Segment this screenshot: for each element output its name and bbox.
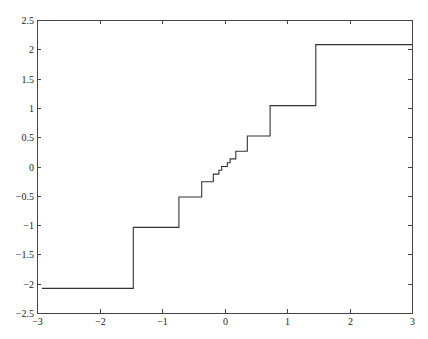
x-tick-label: −3 [32,316,43,327]
x-tick-label: 3 [410,316,415,327]
x-tick-label: −2 [95,316,106,327]
x-tick-label: 0 [223,316,228,327]
x-axis-ticks: −3−2−10123 [32,20,415,327]
y-tick-label: 0 [29,162,34,173]
x-tick-label: 1 [285,316,290,327]
x-tick-label: 2 [348,316,353,327]
y-tick-label: 2 [29,44,34,55]
step-curve [42,45,412,289]
y-tick-label: −2 [23,279,34,290]
y-tick-label: 1 [29,103,34,114]
y-tick-label: −1.5 [16,249,34,260]
x-tick-label: −1 [157,316,168,327]
y-tick-label: 2.5 [22,15,35,26]
step-chart: 2.521.510.50−0.5−1−1.5−2−2.5 −3−2−10123 [0,0,428,339]
y-tick-label: −1 [23,220,34,231]
y-tick-label: −0.5 [16,191,34,202]
y-tick-label: 1.5 [22,74,35,85]
y-axis-ticks: 2.521.510.50−0.5−1−1.5−2−2.5 [16,15,412,319]
y-tick-label: 0.5 [22,132,35,143]
